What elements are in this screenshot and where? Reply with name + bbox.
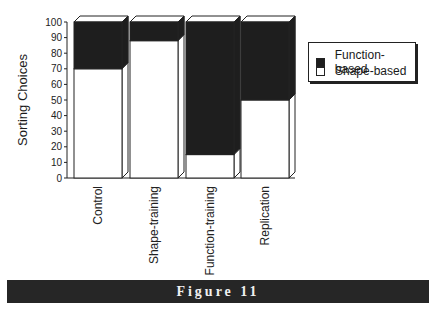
bar-side-function bbox=[122, 16, 128, 69]
figure-caption: Figure 11 bbox=[7, 280, 429, 303]
y-axis-label: Sorting Choices bbox=[15, 54, 30, 146]
legend-item-shape-based: Shape-based bbox=[316, 64, 406, 78]
y-tick-label: 20 bbox=[51, 141, 63, 152]
legend: Function-based Shape-based bbox=[308, 42, 416, 82]
y-tick-label: 60 bbox=[51, 79, 63, 90]
y-tick-label: 90 bbox=[51, 32, 63, 43]
bar-side-function bbox=[234, 16, 240, 155]
y-tick-label: 80 bbox=[51, 48, 63, 59]
x-category-label: Replication bbox=[258, 186, 272, 245]
bar-top bbox=[74, 16, 128, 22]
bar-segment-function-based bbox=[130, 22, 178, 41]
bar-top bbox=[130, 16, 184, 22]
bar-segment-shape-based bbox=[74, 69, 122, 178]
y-tick-label: 40 bbox=[51, 110, 63, 121]
y-tick-label: 10 bbox=[51, 157, 63, 168]
x-category-label: Shape-training bbox=[147, 186, 161, 264]
y-tick-label: 0 bbox=[56, 173, 62, 184]
bar-segment-shape-based bbox=[186, 155, 234, 178]
bar-side-function bbox=[289, 16, 295, 100]
x-category-label: Control bbox=[91, 186, 105, 225]
bar-segment-function-based bbox=[186, 22, 234, 155]
bar-segment-function-based bbox=[241, 22, 289, 100]
bar-segment-function-based bbox=[74, 22, 122, 69]
legend-label: Shape-based bbox=[335, 64, 406, 78]
y-tick-label: 70 bbox=[51, 63, 63, 74]
bar-segment-shape-based bbox=[130, 41, 178, 178]
bar-top bbox=[186, 16, 240, 22]
bar-segment-shape-based bbox=[241, 100, 289, 178]
legend-swatch-shape-based bbox=[316, 67, 325, 76]
bar-top bbox=[241, 16, 295, 22]
y-tick-label: 50 bbox=[51, 95, 63, 106]
y-tick-label: 30 bbox=[51, 126, 63, 137]
y-tick-label: 100 bbox=[45, 17, 62, 28]
x-category-label: Function-training bbox=[203, 186, 217, 275]
